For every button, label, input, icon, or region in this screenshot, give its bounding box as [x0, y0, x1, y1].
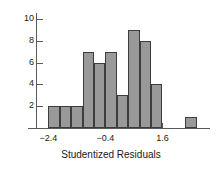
x-axis-tick-label: 1.6	[147, 133, 177, 143]
histogram-bar	[151, 84, 162, 128]
histogram-bar	[117, 95, 128, 128]
histogram-bar	[94, 63, 105, 128]
histogram-figure: 246810 −2.4−0.41.6 Studentized Residuals	[0, 0, 222, 171]
histogram-bar	[71, 106, 82, 128]
x-axis-tick-label: −2.4	[33, 133, 63, 143]
histogram-bar	[140, 41, 151, 128]
histogram-bar	[128, 30, 139, 128]
x-axis-tick-label: −0.4	[90, 133, 120, 143]
x-axis-title: Studentized Residuals	[0, 149, 222, 161]
histogram-bars	[0, 0, 222, 129]
histogram-bar	[105, 52, 116, 128]
histogram-bar	[60, 106, 71, 128]
histogram-bar	[83, 52, 94, 128]
histogram-bar	[185, 117, 196, 128]
histogram-bar	[48, 106, 59, 128]
